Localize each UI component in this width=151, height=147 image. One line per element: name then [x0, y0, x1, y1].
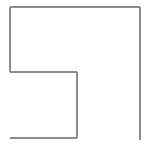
drawing-canvas — [0, 0, 151, 147]
canvas-background — [0, 0, 151, 147]
l-shape-figure — [0, 0, 151, 147]
